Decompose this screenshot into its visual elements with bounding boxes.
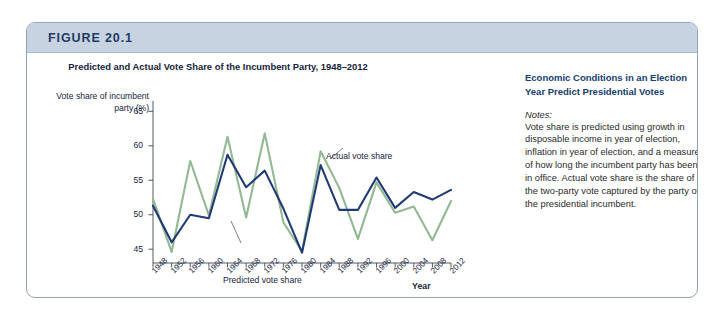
series-lines bbox=[153, 133, 451, 252]
figure-label: FIGURE 20.1 bbox=[48, 31, 133, 45]
side-panel: Economic Conditions in an Election Year … bbox=[525, 71, 698, 210]
leader-line-predicted bbox=[231, 221, 241, 243]
plot-canvas bbox=[153, 101, 451, 263]
chart-title: Predicted and Actual Vote Share of the I… bbox=[53, 61, 383, 73]
y-tick-label: 60 bbox=[117, 140, 143, 150]
y-tick-label: 45 bbox=[117, 244, 143, 254]
annotation-predicted-vote-share: Predicted vote share bbox=[223, 275, 302, 285]
x-axis-title: Year bbox=[412, 281, 431, 291]
figure-card: FIGURE 20.1 Predicted and Actual Vote Sh… bbox=[26, 22, 698, 298]
line-chart-svg bbox=[153, 101, 451, 263]
y-tick-label: 65 bbox=[117, 106, 143, 116]
y-tick-label: 55 bbox=[117, 175, 143, 185]
side-panel-heading: Economic Conditions in an Election Year … bbox=[525, 71, 698, 99]
y-tick-label: 50 bbox=[117, 209, 143, 219]
tick-marks bbox=[149, 111, 452, 267]
series-line-predicted-vote-share bbox=[153, 155, 451, 253]
chart-area: Predicted and Actual Vote Share of the I… bbox=[27, 53, 497, 298]
notes-body: Vote share is predicted using growth in … bbox=[525, 121, 698, 211]
notes-label: Notes: bbox=[525, 110, 698, 120]
annotation-actual-vote-share: Actual vote share bbox=[326, 151, 392, 161]
series-line-actual-vote-share bbox=[153, 133, 451, 252]
